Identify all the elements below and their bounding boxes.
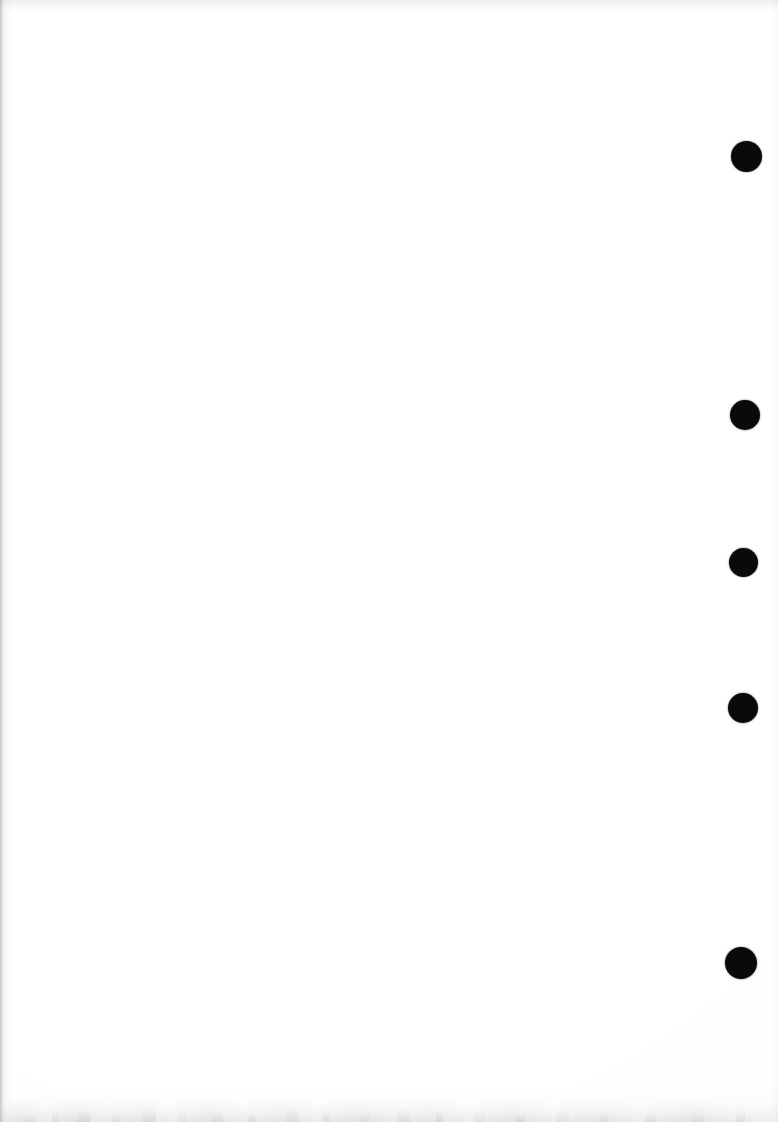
scan-speckle [646, 1112, 656, 1122]
scan-shadow-bottom [0, 1088, 778, 1122]
scan-speckle [322, 1110, 330, 1122]
punch-mark-3 [729, 548, 758, 577]
scan-speckle [112, 1112, 120, 1122]
punch-mark-2 [730, 400, 760, 430]
scan-speckle [692, 1107, 704, 1122]
scan-speckle [52, 1108, 59, 1122]
scan-speckle [556, 1108, 569, 1122]
scan-speckle [360, 1112, 370, 1122]
punch-mark-4 [728, 693, 758, 723]
scan-speckle [516, 1113, 525, 1122]
page-content [40, 40, 680, 1040]
scan-speckle [600, 1110, 608, 1122]
scanned-page [0, 0, 778, 1122]
scan-speckle [142, 1107, 156, 1122]
scan-shadow-right [770, 0, 778, 1122]
scan-speckle [78, 1110, 90, 1122]
scan-speckle [736, 1109, 745, 1122]
scan-speckle [248, 1113, 255, 1122]
scan-shadow-left [0, 0, 14, 1122]
scan-speckle [178, 1109, 187, 1122]
scan-speckle [26, 1113, 36, 1122]
scan-speckle [474, 1111, 485, 1122]
scan-shadow-left-deep [0, 0, 4, 1122]
scan-speckle [436, 1109, 443, 1122]
scan-shadow-top [0, 0, 778, 16]
scan-smudge-band [0, 1096, 778, 1122]
punch-mark-1 [731, 141, 762, 172]
scan-speckle [398, 1107, 410, 1122]
scan-speckle [212, 1111, 223, 1122]
punch-mark-5 [725, 947, 757, 979]
scan-speckle [286, 1108, 299, 1122]
